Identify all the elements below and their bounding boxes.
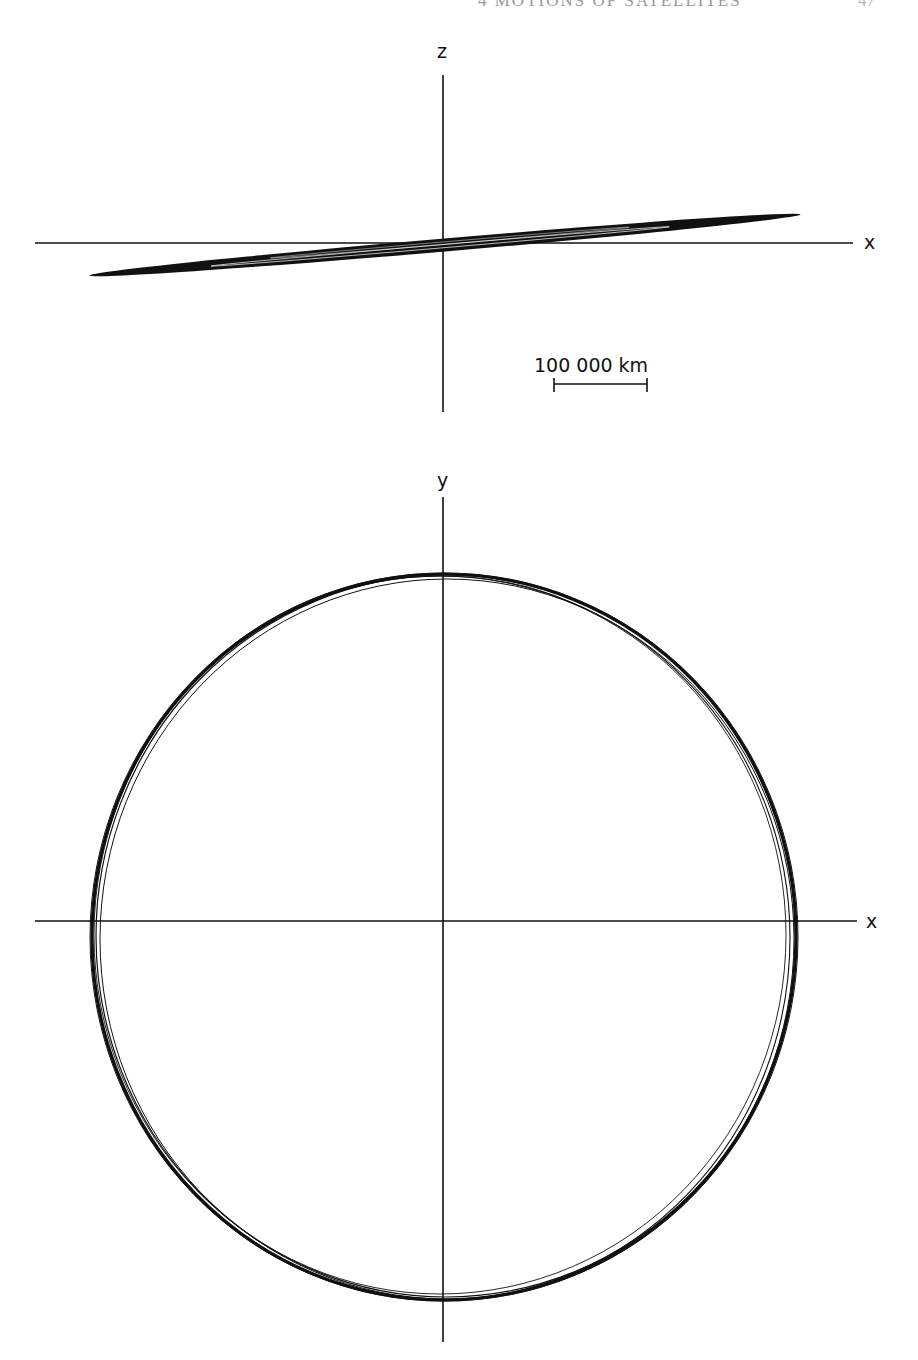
y-axis-label: y — [437, 469, 448, 491]
orbit-edge-on — [89, 208, 802, 282]
x-axis-label-top: x — [864, 231, 875, 253]
orbit-figure: z x 100 000 km y x — [0, 0, 918, 1360]
z-axis-label: z — [437, 40, 447, 62]
scale-bar: 100 000 km — [534, 354, 648, 392]
x-axis-label-bottom: x — [866, 910, 877, 932]
xz-projection: z x 100 000 km — [35, 40, 875, 412]
scale-bar-label: 100 000 km — [534, 354, 648, 376]
orbit-traces — [90, 573, 798, 1301]
xy-projection: y x — [35, 469, 877, 1342]
